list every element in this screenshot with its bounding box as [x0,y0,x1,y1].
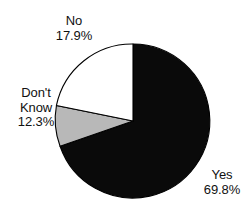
pie-label-no: No 17.9% [38,14,110,43]
pie-label-dont-know: Don't Know 12.3% [2,86,70,130]
pie-chart: No 17.9% Don't Know 12.3% Yes 69.8% [0,0,250,215]
pie-label-yes: Yes 69.8% [194,168,250,197]
pie-label-yes-value: 69.8% [194,183,250,198]
pie-label-no-value: 17.9% [38,29,110,44]
pie-label-dont-know-name-line2: Know [2,101,70,116]
pie-label-dont-know-value: 12.3% [2,115,70,130]
pie-label-yes-name: Yes [194,168,250,183]
pie-label-no-name: No [38,14,110,29]
pie-label-dont-know-name-line1: Don't [2,86,70,101]
